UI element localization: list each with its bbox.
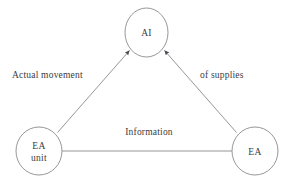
node-ai[interactable]: AI bbox=[125, 8, 168, 57]
node-ea-unit-label-line2: unit bbox=[31, 153, 47, 163]
edge-label-information: Information bbox=[125, 127, 173, 137]
node-ai-label: AI bbox=[141, 28, 152, 38]
node-ea-unit-circle bbox=[16, 127, 62, 175]
diagram-canvas: AI EA unit EA Actual movement of supplie… bbox=[0, 0, 286, 188]
edge-label-of-supplies: of supplies bbox=[200, 70, 244, 80]
edge-label-actual-movement: Actual movement bbox=[12, 70, 83, 80]
node-ea-unit-label-line1: EA bbox=[32, 141, 45, 151]
edge-ea-unit-to-ai[interactable] bbox=[58, 51, 130, 133]
diagram-svg: AI EA unit EA Actual movement of supplie… bbox=[0, 0, 286, 188]
node-ea-unit[interactable]: EA unit bbox=[16, 127, 62, 175]
edge-ea-to-ai[interactable] bbox=[165, 51, 237, 133]
node-ea[interactable]: EA bbox=[232, 127, 278, 175]
node-ea-label: EA bbox=[248, 147, 261, 157]
